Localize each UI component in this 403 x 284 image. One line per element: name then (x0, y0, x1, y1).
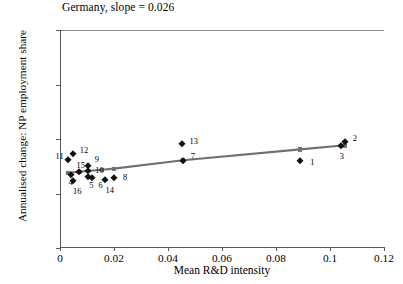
data-point-label: 3 (340, 152, 344, 161)
plot-area: -0.00500.0050.010.01500.020.040.060.080.… (60, 30, 384, 248)
data-point-label: 6 (98, 181, 102, 190)
data-point-label: 12 (80, 146, 88, 155)
x-axis-tick (330, 247, 331, 251)
data-point-label: 7 (191, 152, 195, 161)
y-axis-tick (56, 85, 60, 86)
x-axis-tick (276, 247, 277, 251)
x-axis-tick (114, 247, 115, 251)
x-axis-tick-label: 0.1 (323, 252, 337, 264)
x-axis-tick (222, 247, 223, 251)
y-axis-tick (56, 194, 60, 195)
x-axis-tick (384, 247, 385, 251)
fit-line-marker (298, 147, 302, 151)
data-point-label: 14 (106, 186, 114, 195)
x-axis-tick-label: 0.04 (158, 252, 178, 264)
x-axis-label: Mean R&D intensity (60, 264, 384, 276)
data-point-label: 8 (123, 173, 127, 182)
page-title: Germany, slope = 0.026 (62, 1, 174, 13)
x-axis-tick-label: 0.12 (374, 252, 394, 264)
y-axis-label: Annualised change: NP employment share (16, 11, 28, 241)
x-axis-tick-label: 0.02 (104, 252, 124, 264)
y-axis-tick (56, 139, 60, 140)
data-point-label: 10 (95, 166, 103, 175)
x-axis-tick-label: 0 (57, 252, 63, 264)
x-axis-tick (168, 247, 169, 251)
x-axis-tick-label: 0.06 (212, 252, 232, 264)
regression-line (60, 30, 384, 248)
data-point-label: 11 (56, 152, 64, 161)
data-point-label: 16 (73, 187, 81, 196)
y-axis-tick (56, 30, 60, 31)
fit-line-marker (112, 167, 116, 171)
scatter-plot-figure: Germany, slope = 0.026 Annualised change… (0, 0, 403, 284)
data-point-label: 13 (190, 137, 198, 146)
x-axis-tick (60, 247, 61, 251)
data-point-label: 9 (95, 155, 99, 164)
data-point-label: 15 (76, 161, 84, 170)
x-axis-tick-label: 0.08 (266, 252, 286, 264)
data-point-label: 1 (310, 158, 314, 167)
data-point-label: 2 (353, 134, 357, 143)
